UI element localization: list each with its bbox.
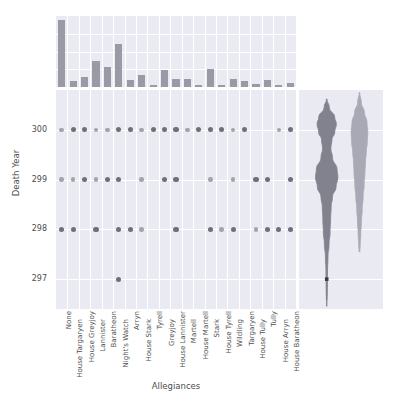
gridline-vertical: [159, 90, 160, 309]
scatter-point: [185, 128, 190, 133]
bar: [195, 85, 202, 87]
x-tick-label: House Arryn: [282, 319, 290, 362]
scatter-point: [139, 227, 144, 232]
bar: [207, 69, 214, 87]
scatter-point: [196, 127, 201, 132]
x-tick-label: House Greyjoy: [88, 311, 96, 362]
bar: [230, 79, 237, 87]
x-tick-label: House Stark: [145, 319, 153, 362]
gridline-vertical: [170, 90, 171, 309]
gridline-vertical: [273, 90, 274, 309]
y-axis-label: Death Year: [11, 133, 21, 213]
bar: [218, 85, 225, 87]
x-tick-label: House Targaryen: [76, 319, 84, 378]
bar: [252, 84, 259, 87]
gridline-vertical: [182, 90, 183, 309]
scatter-point: [116, 227, 121, 232]
scatter-point: [162, 177, 167, 182]
scatter-point: [173, 227, 178, 232]
scatter-point: [276, 227, 281, 232]
figure: 300299298297 Death Year NoneHouse Targar…: [0, 0, 401, 412]
bar: [115, 44, 122, 87]
scatter-point: [242, 127, 247, 132]
y-tick-label: 298: [32, 224, 47, 233]
x-tick-label: House Lannister: [179, 311, 187, 368]
scatter-point: [82, 127, 87, 132]
y-tick-label: 299: [32, 175, 47, 184]
x-tick-label: Greyjoy: [168, 319, 176, 346]
bar: [58, 20, 65, 87]
gridline-vertical: [90, 90, 91, 309]
scatter-point: [288, 227, 293, 232]
scatter-point: [59, 177, 64, 182]
scatter-point: [219, 227, 224, 232]
scatter-point: [116, 127, 121, 132]
scatter-point: [208, 177, 213, 182]
y-tick-label: 300: [32, 125, 47, 134]
scatter-point: [128, 127, 133, 132]
scatter-point: [139, 128, 144, 133]
scatter-point: [93, 227, 98, 232]
scatter-point: [116, 277, 121, 282]
gridline-vertical: [102, 90, 103, 309]
marginal-violin-plot: [299, 90, 383, 309]
x-tick-label: House Martell: [202, 311, 210, 359]
x-tick-label: Wildling: [236, 319, 244, 347]
scatter-point: [71, 127, 76, 132]
scatter-point: [173, 177, 178, 182]
scatter-point: [105, 128, 110, 133]
violin-light: [351, 92, 368, 251]
main-scatter-plot: [56, 90, 296, 309]
x-tick-label: Night's Watch: [122, 319, 130, 367]
scatter-point: [71, 227, 76, 232]
x-tick-label: Lannister: [99, 319, 107, 352]
scatter-point: [231, 128, 236, 133]
bar: [264, 80, 271, 87]
scatter-point: [59, 128, 64, 133]
x-tick-label: Baratheon: [110, 311, 118, 347]
gridline-vertical: [147, 90, 148, 309]
scatter-point: [265, 227, 270, 232]
violin-shapes: [299, 90, 383, 309]
gridline-vertical: [285, 90, 286, 309]
violin-median-marker: [325, 277, 329, 281]
scatter-point: [265, 177, 270, 182]
x-tick-label: Tully: [270, 311, 278, 327]
x-tick-label: Targaryen: [248, 311, 256, 346]
bar: [172, 79, 179, 87]
x-tick-label: House Tully: [259, 319, 267, 359]
bar: [70, 81, 77, 87]
gridline-vertical: [136, 90, 137, 309]
scatter-point: [288, 127, 293, 132]
bar: [150, 85, 157, 87]
marginal-bar-chart: [56, 16, 296, 87]
scatter-point: [231, 177, 236, 182]
scatter-point: [173, 127, 178, 132]
bar: [241, 81, 248, 87]
scatter-point: [59, 227, 64, 232]
gridline-vertical: [239, 90, 240, 309]
x-tick-label: House Baratheon: [293, 311, 301, 372]
gridline-vertical: [227, 90, 228, 309]
bar: [92, 61, 99, 87]
scatter-point: [94, 128, 99, 133]
x-axis-label: Allegiances: [56, 381, 296, 391]
scatter-point: [288, 177, 293, 182]
bar: [104, 67, 111, 87]
x-tick-label: Stark: [213, 319, 221, 337]
scatter-point: [208, 127, 213, 132]
scatter-point: [254, 227, 259, 232]
scatter-point: [208, 227, 213, 232]
scatter-point: [162, 127, 167, 132]
gridline-vertical: [67, 90, 68, 309]
scatter-point: [139, 177, 144, 182]
bar: [81, 77, 88, 87]
x-tick-label: Tyrell: [156, 311, 164, 329]
scatter-point: [151, 127, 156, 132]
bar: [161, 70, 168, 87]
gridline-vertical: [250, 90, 251, 309]
scatter-point: [253, 177, 258, 182]
bar: [127, 80, 134, 87]
x-tick-label: Martell: [190, 319, 198, 343]
x-axis-ticks: NoneHouse TargaryenHouse GreyjoyLanniste…: [56, 311, 296, 381]
